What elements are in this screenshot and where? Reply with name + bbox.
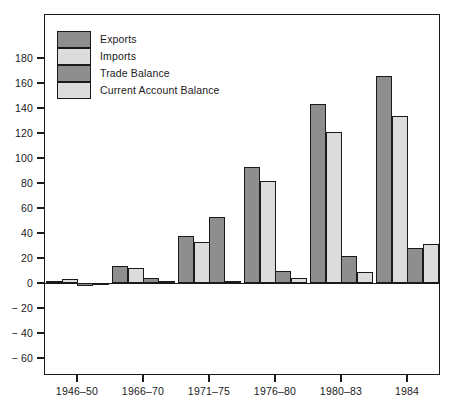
- bar: [244, 167, 260, 283]
- legend-swatch: [57, 82, 91, 99]
- y-axis-tick-label: 100: [0, 153, 33, 164]
- y-axis-tick: [37, 82, 45, 83]
- bar: [128, 268, 144, 283]
- legend-swatch: [57, 31, 91, 48]
- x-axis-tick: [274, 375, 275, 382]
- bar: [291, 278, 307, 283]
- bar: [77, 283, 93, 286]
- bar: [143, 278, 159, 283]
- x-axis-tick: [406, 375, 407, 382]
- y-axis-tick-label: 80: [0, 178, 33, 189]
- legend-swatch: [57, 48, 91, 65]
- y-axis-tick: [37, 107, 45, 108]
- x-axis-tick: [142, 375, 143, 382]
- x-axis-tick: [340, 375, 341, 382]
- bar: [93, 283, 109, 285]
- y-axis-tick-label: 120: [0, 128, 33, 139]
- x-axis-tick: [208, 375, 209, 382]
- bar: [260, 181, 276, 284]
- y-axis-tick-label: 40: [0, 228, 33, 239]
- y-axis-tick-label: 160: [0, 78, 33, 89]
- legend-swatch: [57, 65, 91, 82]
- y-axis-tick-label: 20: [0, 253, 33, 264]
- y-axis-tick: [37, 207, 45, 208]
- bar: [376, 76, 392, 284]
- bar: [392, 116, 408, 284]
- bar: [194, 242, 210, 283]
- bar: [310, 104, 326, 283]
- y-axis-tick-label: − 40: [0, 328, 33, 339]
- y-axis-tick-label: 180: [0, 53, 33, 64]
- x-axis-tick-label: 1984: [367, 386, 447, 397]
- y-axis-tick: [37, 332, 45, 333]
- bar: [407, 248, 423, 283]
- y-axis-tick: [37, 132, 45, 133]
- bar: [209, 217, 225, 283]
- bar: [357, 272, 373, 283]
- legend-item-label: Trade Balance: [100, 67, 170, 79]
- bar: [275, 271, 291, 284]
- bar: [178, 236, 194, 284]
- y-axis-tick-label: 0: [0, 278, 33, 289]
- bar: [225, 281, 241, 284]
- bar: [326, 132, 342, 283]
- bar: [46, 281, 62, 284]
- y-axis-tick: [37, 257, 45, 258]
- legend-item-label: Current Account Balance: [100, 84, 220, 96]
- bar: [159, 281, 175, 284]
- x-axis-tick: [76, 375, 77, 382]
- y-axis-tick-label: 140: [0, 103, 33, 114]
- legend-item-label: Imports: [100, 50, 136, 62]
- y-axis-tick-label: − 20: [0, 303, 33, 314]
- y-axis-tick-label: − 60: [0, 353, 33, 364]
- y-axis-tick: [37, 232, 45, 233]
- bar-chart: 180160140120100806040200− 20− 40− 60 194…: [0, 0, 456, 415]
- bar: [423, 244, 439, 283]
- bar: [341, 256, 357, 284]
- y-axis-tick: [37, 57, 45, 58]
- y-axis-tick: [37, 307, 45, 308]
- legend-item-label: Exports: [100, 33, 137, 45]
- bar: [112, 266, 128, 284]
- y-axis-tick: [37, 282, 45, 283]
- bar: [62, 279, 78, 283]
- y-axis-tick-label: 60: [0, 203, 33, 214]
- y-axis-tick: [37, 357, 45, 358]
- y-axis-tick: [37, 157, 45, 158]
- y-axis-tick: [37, 182, 45, 183]
